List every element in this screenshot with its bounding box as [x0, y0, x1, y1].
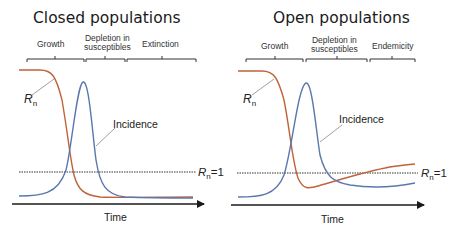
open-incidence-label: Incidence [339, 113, 384, 125]
open-incidence-curve [238, 83, 415, 197]
closed-time-label: Time [104, 211, 127, 223]
open-threshold-label: Rn=1 [421, 167, 447, 182]
open-phase-growth: Growth [261, 42, 288, 51]
closed-rn-curve [19, 70, 193, 197]
closed-incidence-curve [19, 82, 193, 198]
closed-incidence-label: Incidence [113, 118, 158, 130]
open-phase-depletion: Depletion insusceptibles [311, 36, 358, 54]
open-incidence-pointer [320, 125, 342, 142]
closed-incidence-pointer [96, 128, 115, 146]
open-rn-label: Rn [243, 92, 256, 108]
open-time-label: Time [321, 213, 344, 225]
diagram-canvas [0, 0, 458, 232]
closed-phase-growth: Growth [37, 40, 64, 49]
closed-phase-depletion: Depletion insusceptibles [84, 34, 131, 52]
open-panel-braces [246, 56, 415, 62]
closed-panel-braces [27, 56, 196, 62]
open-phase-endemicity: Endemicity [372, 42, 414, 51]
closed-panel-title: Closed populations [33, 9, 181, 27]
open-panel-title: Open populations [273, 9, 410, 27]
closed-threshold-label: Rn=1 [198, 166, 224, 181]
closed-phase-extinction: Extinction [142, 40, 179, 49]
closed-rn-label: Rn [24, 92, 37, 108]
